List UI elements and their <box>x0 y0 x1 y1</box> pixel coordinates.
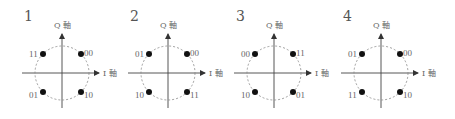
point-label-top-right: 00 <box>190 48 200 58</box>
point-label-bottom-left: 11 <box>348 90 357 100</box>
i-axis-label: I 軸 <box>422 68 436 78</box>
constellation-diagram-2: 2 Q 軸 I 軸 01 00 10 11 <box>128 8 223 108</box>
constellation-diagram-3: 3 Q 軸 I 軸 00 11 10 01 <box>234 8 329 108</box>
symbol-point <box>359 51 365 57</box>
point-label-bottom-right: 01 <box>296 90 305 100</box>
point-label-top-right: 11 <box>296 48 305 58</box>
option-number: 3 <box>236 8 245 24</box>
point-label-bottom-left: 10 <box>241 90 251 100</box>
symbol-point <box>359 89 365 95</box>
point-label-bottom-left: 10 <box>135 90 145 100</box>
point-label-top-right: 00 <box>84 48 94 58</box>
option-number: 1 <box>24 8 33 24</box>
symbol-point <box>146 89 152 95</box>
symbol-point <box>252 51 258 57</box>
q-axis-label: Q 軸 <box>54 20 71 30</box>
symbol-point <box>252 89 258 95</box>
constellation-diagram-4: 4 Q 軸 I 軸 01 00 11 10 <box>341 8 436 108</box>
symbol-point <box>40 51 46 57</box>
i-axis-label: I 軸 <box>209 68 223 78</box>
point-label-top-left: 01 <box>348 49 357 59</box>
q-axis-label: Q 軸 <box>373 20 390 30</box>
point-label-bottom-right: 10 <box>403 90 413 100</box>
point-label-bottom-right: 11 <box>190 90 199 100</box>
point-label-top-right: 00 <box>403 48 413 58</box>
symbol-point <box>40 89 46 95</box>
point-label-top-left: 11 <box>29 49 38 59</box>
qpsk-constellation-figure: 1 Q 軸 I 軸 11 00 01 10 2 Q 軸 I 軸 01 00 10… <box>0 0 455 119</box>
point-label-top-left: 01 <box>135 49 144 59</box>
point-label-bottom-right: 10 <box>84 90 94 100</box>
point-label-top-left: 00 <box>241 49 251 59</box>
constellation-diagram-1: 1 Q 軸 I 軸 11 00 01 10 <box>22 8 117 108</box>
option-number: 2 <box>130 8 139 24</box>
q-axis-label: Q 軸 <box>160 20 177 30</box>
i-axis-label: I 軸 <box>103 68 117 78</box>
option-number: 4 <box>343 8 352 24</box>
q-axis-label: Q 軸 <box>266 20 283 30</box>
point-label-bottom-left: 01 <box>29 90 38 100</box>
i-axis-label: I 軸 <box>315 68 329 78</box>
symbol-point <box>146 51 152 57</box>
